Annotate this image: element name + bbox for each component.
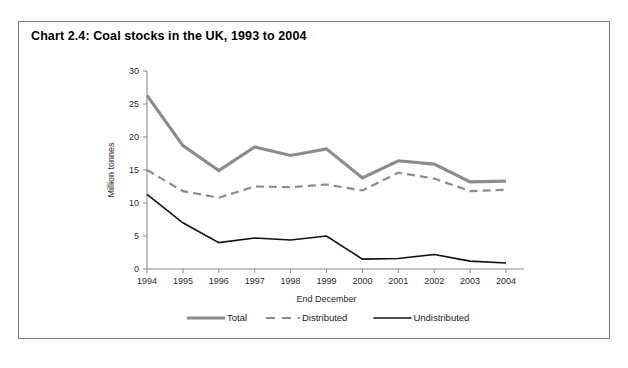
chart-panel: Chart 2.4: Coal stocks in the UK, 1993 t… bbox=[18, 21, 610, 339]
x-tick-label: 1994 bbox=[137, 276, 157, 286]
y-tick-label: 15 bbox=[129, 165, 139, 175]
x-tick-label: 1996 bbox=[209, 276, 229, 286]
x-tick-label: 1995 bbox=[173, 276, 193, 286]
y-tick-label: 30 bbox=[129, 66, 139, 76]
legend-label-distributed: Distributed bbox=[302, 312, 347, 323]
legend-label-undistributed: Undistributed bbox=[413, 312, 469, 323]
y-tick-label: 20 bbox=[129, 132, 139, 142]
line-chart: 051015202530Million tonnes19941995199619… bbox=[19, 22, 609, 338]
x-tick-label: 2003 bbox=[460, 276, 480, 286]
y-axis-title: Million tonnes bbox=[106, 142, 116, 198]
legend-label-total: Total bbox=[227, 312, 247, 323]
x-tick-label: 2002 bbox=[424, 276, 444, 286]
y-tick-label: 0 bbox=[134, 264, 139, 274]
y-tick-label: 10 bbox=[129, 198, 139, 208]
x-tick-label: 1999 bbox=[316, 276, 336, 286]
x-tick-label: 2000 bbox=[352, 276, 372, 286]
series-line-total bbox=[147, 95, 506, 181]
x-tick-label: 1998 bbox=[281, 276, 301, 286]
y-tick-label: 25 bbox=[129, 99, 139, 109]
x-tick-label: 2004 bbox=[496, 276, 516, 286]
y-tick-label: 5 bbox=[134, 231, 139, 241]
x-axis-title: End December bbox=[296, 294, 356, 304]
x-tick-label: 2001 bbox=[388, 276, 408, 286]
x-tick-label: 1997 bbox=[245, 276, 265, 286]
series-line-undistributed bbox=[147, 194, 506, 263]
